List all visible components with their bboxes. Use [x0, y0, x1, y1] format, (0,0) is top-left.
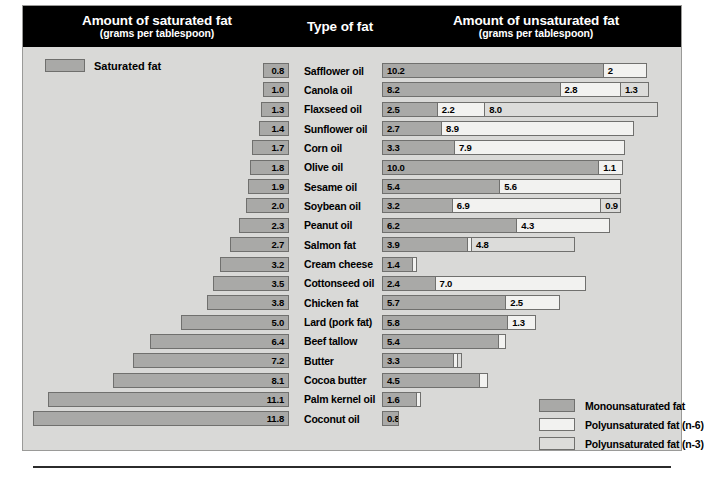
unsaturated-segment-mono: 10.2: [383, 64, 603, 77]
fat-composition-figure: Amount of saturated fat (grams per table…: [0, 0, 704, 479]
segment-value: 8.9: [442, 123, 459, 134]
header-type: Type of fat: [291, 6, 389, 47]
unsaturated-fat-bar: 3.3: [382, 353, 462, 368]
saturated-fat-value: 2.3: [271, 220, 288, 231]
saturated-fat-value: 1.0: [271, 84, 288, 95]
table-row: 3.2Cream cheese1.4: [23, 257, 681, 272]
saturated-fat-bar: 3.8: [207, 295, 289, 310]
header-saturated-subtitle: (grams per tablespoon): [100, 28, 215, 40]
unsaturated-fat-bar: 10.01.1: [382, 160, 623, 175]
unsaturated-fat-bar: 0.8: [382, 411, 399, 426]
table-row: 1.4Sunflower oil2.78.9: [23, 121, 681, 136]
unsaturated-fat-bar: 5.81.3: [382, 315, 536, 330]
saturated-fat-value: 6.4: [271, 336, 288, 347]
unsaturated-fat-bar: 1.6: [382, 392, 421, 407]
table-row: 2.7Salmon fat3.94.8: [23, 237, 681, 252]
segment-value: 5.4: [383, 336, 400, 347]
table-row: 5.0Lard (pork fat)5.81.3: [23, 315, 681, 330]
legend-label: Polyunsaturated fat (n-6): [585, 419, 704, 431]
saturated-fat-bar: 11.1: [48, 392, 289, 407]
legend-item: Polyunsaturated fat (n-6): [539, 415, 704, 434]
saturated-fat-value: 5.0: [271, 317, 288, 328]
table-row: 7.2Butter3.3: [23, 353, 681, 368]
legend-swatch-n3: [539, 437, 575, 450]
legend-item: Monounsaturated fat: [539, 396, 704, 415]
unsaturated-segment-n6: 7.9: [454, 141, 624, 154]
unsaturated-segment-mono: 2.4: [383, 277, 435, 290]
table-row: 6.4Beef tallow5.4: [23, 334, 681, 349]
unsaturated-segment-n6: 2.2: [437, 103, 484, 116]
food-label: Corn oil: [304, 140, 342, 155]
segment-value: 5.8: [383, 317, 400, 328]
segment-value: 8.0: [485, 104, 502, 115]
unsaturated-segment-mono: 3.2: [383, 199, 452, 212]
header-unsaturated-subtitle: (grams per tablespoon): [479, 28, 594, 40]
unsaturated-segment-n6: 2.8: [560, 83, 620, 96]
segment-value: 1.1: [599, 162, 616, 173]
saturated-fat-value: 1.8: [271, 162, 288, 173]
header-saturated: Amount of saturated fat (grams per table…: [23, 6, 291, 47]
segment-value: 10.0: [383, 162, 405, 173]
header-unsaturated: Amount of unsaturated fat (grams per tab…: [389, 6, 683, 47]
unsaturated-segment-n6: 1.3: [507, 316, 535, 329]
segment-value: 8.2: [383, 84, 400, 95]
unsaturated-segment-n6: [416, 393, 420, 406]
segment-value: 3.3: [383, 355, 400, 366]
segment-value: 2.2: [438, 104, 455, 115]
food-label: Canola oil: [304, 82, 352, 97]
food-label: Soybean oil: [304, 198, 361, 213]
segment-value: 5.4: [383, 181, 400, 192]
unsaturated-fat-bar: 4.5: [382, 373, 488, 388]
saturated-fat-value: 1.3: [271, 104, 288, 115]
unsaturated-fat-bar: 3.26.90.9: [382, 198, 621, 213]
saturated-fat-bar: 1.3: [261, 102, 289, 117]
header-type-title: Type of fat: [307, 19, 373, 34]
unsaturated-segment-mono: 10.0: [383, 161, 598, 174]
saturated-fat-value: 1.7: [271, 142, 288, 153]
food-label: Olive oil: [304, 160, 343, 175]
segment-value: 1.6: [383, 394, 400, 405]
food-label: Lard (pork fat): [304, 315, 372, 330]
unsaturated-segment-mono: 0.8: [383, 412, 398, 425]
food-label: Peanut oil: [304, 218, 352, 233]
segment-value: 4.5: [383, 375, 400, 386]
saturated-fat-bar: 1.7: [252, 140, 289, 155]
saturated-fat-bar: 1.8: [250, 160, 289, 175]
segment-value: 7.0: [436, 278, 453, 289]
unsaturated-segment-n3: 1.3: [620, 83, 648, 96]
segment-value: 2.5: [506, 297, 523, 308]
food-label: Sesame oil: [304, 179, 357, 194]
segment-value: 4.3: [517, 220, 534, 231]
segment-value: 1.3: [621, 84, 638, 95]
unsaturated-segment-n3: [457, 354, 461, 367]
unsaturated-segment-n3: 4.8: [471, 238, 574, 251]
unsaturated-fat-bar: 2.52.28.0: [382, 102, 658, 117]
table-row: 1.0Canola oil8.22.81.3: [23, 82, 681, 97]
unsaturated-segment-n6: 5.6: [499, 180, 620, 193]
food-label: Beef tallow: [304, 334, 357, 349]
saturated-fat-value: 3.5: [271, 278, 288, 289]
unsaturated-fat-bar: 2.47.0: [382, 276, 586, 291]
saturated-fat-value: 11.1: [267, 394, 288, 405]
unsaturated-segment-n6: 2.5: [505, 296, 559, 309]
table-row: 1.3Flaxseed oil2.52.28.0: [23, 102, 681, 117]
saturated-fat-bar: 7.2: [133, 353, 289, 368]
saturated-fat-bar: 1.9: [248, 179, 289, 194]
segment-value: 2.5: [383, 104, 400, 115]
unsaturated-segment-mono: 1.4: [383, 258, 412, 271]
chart-rows: 0.8Safflower oil10.221.0Canola oil8.22.8…: [23, 47, 681, 452]
unsaturated-segment-mono: 5.4: [383, 335, 498, 348]
saturated-fat-bar: 0.8: [263, 63, 289, 78]
unsaturated-segment-mono: 5.8: [383, 316, 507, 329]
saturated-fat-bar: 2.0: [246, 198, 289, 213]
chart-body: Saturated fat 0.8Safflower oil10.221.0Ca…: [23, 47, 681, 452]
saturated-fat-bar: 8.1: [113, 373, 289, 388]
saturated-fat-bar: 11.8: [33, 411, 289, 426]
legend-item: Polyunsaturated fat (n-3): [539, 434, 704, 453]
table-row: 2.3Peanut oil6.24.3: [23, 218, 681, 233]
unsaturated-segment-mono: 5.4: [383, 180, 499, 193]
segment-value: 0.8: [383, 413, 398, 424]
table-row: 3.5Cottonseed oil2.47.0: [23, 276, 681, 291]
segment-value: 7.9: [455, 142, 472, 153]
food-label: Cream cheese: [304, 257, 373, 272]
